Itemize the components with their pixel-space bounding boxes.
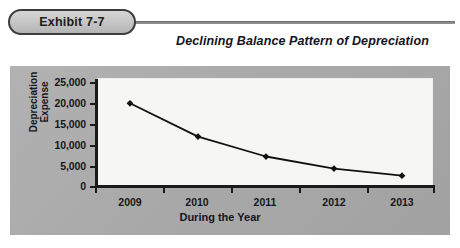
data-point-marker (263, 153, 270, 160)
chart-panel: 25,000 20,000 15,000 10,000 5,000 0 Depr… (10, 66, 450, 235)
data-point-marker (399, 172, 406, 179)
header-divider-line (130, 21, 455, 24)
data-point-marker (331, 165, 338, 172)
exhibit-badge-label: Exhibit 7-7 (39, 15, 104, 29)
data-point-marker (127, 100, 134, 107)
series-plot (10, 66, 450, 235)
series-line (130, 103, 402, 175)
series-markers (127, 100, 406, 179)
data-point-marker (195, 133, 202, 140)
exhibit-badge: Exhibit 7-7 (8, 9, 136, 35)
chart-caption: Declining Balance Pattern of Depreciatio… (150, 34, 455, 48)
exhibit-header: Exhibit 7-7 Declining Balance Pattern of… (0, 0, 460, 62)
